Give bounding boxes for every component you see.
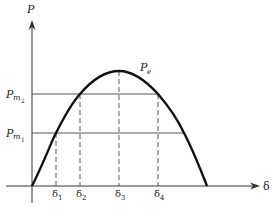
axes (6, 26, 256, 203)
y-axis-label: P (26, 3, 35, 16)
svg-text:m: m (13, 132, 21, 141)
pm2-label: P m 2 (5, 88, 25, 104)
svg-text:1: 1 (58, 194, 62, 202)
x-axis-label: δ (263, 180, 270, 193)
svg-text:3: 3 (121, 194, 125, 202)
delta2-label: δ 2 (76, 188, 86, 202)
delta4-label: δ 4 (154, 188, 165, 202)
delta3-label: δ 3 (115, 188, 125, 202)
power-curve (32, 71, 207, 186)
pm1-label: P m 1 (5, 127, 25, 143)
svg-text:1: 1 (21, 136, 25, 143)
svg-text:2: 2 (21, 97, 25, 104)
svg-text:2: 2 (82, 194, 86, 202)
svg-text:m: m (13, 93, 21, 102)
curve-label: P e (139, 61, 151, 76)
delta1-label: δ 1 (52, 188, 62, 202)
angle-guides (56, 71, 158, 186)
level-lines (32, 94, 184, 133)
power-angle-diagram: P δ P e P m 2 P m 1 δ 1 δ 2 δ 3 δ 4 (0, 0, 273, 216)
svg-text:e: e (147, 68, 151, 76)
svg-text:4: 4 (160, 194, 165, 202)
